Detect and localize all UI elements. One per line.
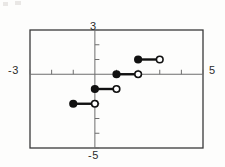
x-axis-min-label: -3 [8, 65, 19, 76]
step-function-figure: 3 -3 5 -5 [0, 0, 225, 167]
plot-canvas [0, 0, 225, 167]
x-axis-max-label: 5 [209, 65, 216, 76]
scan-artifact-left [3, 2, 8, 6]
data-series [70, 56, 163, 107]
y-axis-min-label: -5 [88, 150, 99, 161]
y-axis-max-label: 3 [90, 21, 97, 32]
scan-artifact-right [15, 1, 21, 5]
